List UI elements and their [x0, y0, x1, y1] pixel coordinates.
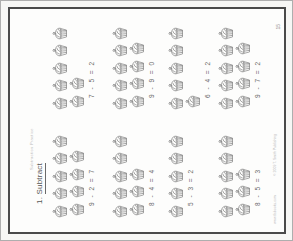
- icon-row: [185, 16, 202, 110]
- cupcake-icon: [129, 201, 145, 218]
- cupcake-icon: [52, 25, 68, 42]
- cupcake-icon: [112, 78, 128, 95]
- subtraction-problem: 9 - 2 = 7: [50, 112, 110, 220]
- cupcake-icon: [168, 133, 184, 150]
- worksheet-header-text: Subtraction Practice: [29, 128, 34, 170]
- footer-copyright: © 2009 T. Smith Publishing: [273, 134, 277, 176]
- cupcake-icon: [112, 203, 128, 220]
- cupcake-icon: [235, 41, 251, 58]
- cupcake-icon: [112, 168, 128, 185]
- cupcake-icon: [52, 60, 68, 77]
- subtraction-problem: 9 - 9 = 0: [110, 16, 166, 112]
- subtraction-problem: 8 - 5 = 3: [216, 112, 274, 220]
- cupcake-icon: [168, 203, 184, 220]
- cupcake-icon: [112, 25, 128, 42]
- subtraction-problem: 6 - 4 = 2: [166, 16, 216, 112]
- cupcake-icon: [69, 184, 85, 201]
- icon-row: [69, 112, 86, 218]
- equation-text: 9 - 9 = 0: [148, 16, 155, 98]
- cupcake-icon: [235, 76, 251, 93]
- cupcake-icon: [218, 95, 234, 112]
- cupcake-icon: [218, 203, 234, 220]
- problems-grid: 9 - 2 = 77 - 5 = 28 - 4 = 49 - 9 = 05 - …: [50, 16, 274, 220]
- cupcake-icon: [52, 95, 68, 112]
- icon-row: [52, 16, 69, 112]
- cupcake-icon: [52, 78, 68, 95]
- scanned-worksheet-view: Subtraction Practice 1. Subtract 9 - 2 =…: [0, 0, 293, 241]
- icon-row: [218, 16, 235, 112]
- cupcake-icon: [129, 166, 145, 183]
- cupcake-icon: [129, 184, 145, 201]
- cupcake-icon: [69, 76, 85, 93]
- cupcake-icon: [168, 95, 184, 112]
- icon-row: [129, 16, 146, 110]
- cupcake-icon: [129, 76, 145, 93]
- cupcake-icon: [168, 151, 184, 168]
- page-number: 15: [275, 24, 281, 30]
- cupcake-icon: [218, 25, 234, 42]
- cupcake-icon: [69, 93, 85, 110]
- cupcake-icon: [168, 25, 184, 42]
- equation-text: 6 - 4 = 2: [204, 16, 211, 98]
- cupcake-icon: [168, 168, 184, 185]
- icon-row: [69, 16, 86, 110]
- page-title: 1. Subtract: [35, 163, 44, 204]
- cupcake-icon: [168, 78, 184, 95]
- cupcake-icon: [129, 93, 145, 110]
- subtraction-problem: 5 - 3 = 2: [166, 112, 216, 220]
- cupcake-icon: [112, 133, 128, 150]
- cupcake-icon: [235, 201, 251, 218]
- cupcake-icon: [168, 186, 184, 203]
- subtraction-problem: 9 - 7 = 2: [216, 16, 274, 112]
- cupcake-icon: [185, 93, 201, 110]
- equation-text: 8 - 5 = 3: [254, 112, 261, 206]
- cupcake-icon: [218, 133, 234, 150]
- icon-row: [235, 112, 252, 218]
- cupcake-icon: [52, 133, 68, 150]
- cupcake-icon: [235, 166, 251, 183]
- cupcake-icon: [52, 186, 68, 203]
- equation-text: 9 - 7 = 2: [254, 16, 261, 98]
- icon-row: [218, 112, 235, 220]
- cupcake-icon: [168, 60, 184, 77]
- cupcake-icon: [52, 168, 68, 185]
- worksheet-page: Subtraction Practice 1. Subtract 9 - 2 =…: [10, 9, 284, 232]
- cupcake-icon: [112, 60, 128, 77]
- cupcake-icon: [168, 43, 184, 60]
- equation-text: 7 - 5 = 2: [88, 16, 95, 98]
- cupcake-icon: [218, 151, 234, 168]
- cupcake-icon: [112, 95, 128, 112]
- cupcake-icon: [69, 166, 85, 183]
- icon-row: [112, 112, 129, 220]
- cupcake-icon: [235, 58, 251, 75]
- cupcake-icon: [235, 184, 251, 201]
- subtraction-problem: 8 - 4 = 4: [110, 112, 166, 220]
- icon-row: [52, 112, 69, 220]
- cupcake-icon: [218, 78, 234, 95]
- cupcake-icon: [112, 151, 128, 168]
- icon-row: [235, 16, 252, 110]
- cupcake-icon: [218, 168, 234, 185]
- equation-text: 9 - 2 = 7: [88, 112, 95, 206]
- cupcake-icon: [112, 43, 128, 60]
- cupcake-icon: [129, 41, 145, 58]
- cupcake-icon: [52, 151, 68, 168]
- equation-text: 8 - 4 = 4: [148, 112, 155, 206]
- cupcake-icon: [218, 43, 234, 60]
- cupcake-icon: [129, 58, 145, 75]
- icon-row: [168, 112, 185, 220]
- equation-text: 5 - 3 = 2: [187, 112, 194, 206]
- icon-row: [112, 16, 129, 112]
- cupcake-icon: [235, 93, 251, 110]
- cupcake-icon: [112, 186, 128, 203]
- footer-website: www.tlsbooks.com: [273, 195, 277, 224]
- title-word: Subtract: [35, 163, 46, 194]
- cupcake-icon: [69, 149, 85, 166]
- scan-page-border: Subtraction Practice 1. Subtract 9 - 2 =…: [8, 7, 286, 234]
- icon-row: [168, 16, 185, 112]
- cupcake-icon: [52, 203, 68, 220]
- cupcake-icon: [52, 43, 68, 60]
- title-number: 1.: [35, 197, 44, 204]
- cupcake-icon: [218, 186, 234, 203]
- cupcake-icon: [69, 201, 85, 218]
